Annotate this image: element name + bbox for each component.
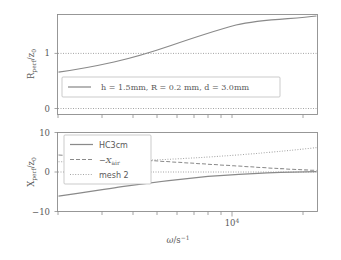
top-ytick-label-1: 1 [45,48,50,58]
legend-xair-sub: air [111,159,119,166]
bottom-legend-label-hc3cm: HC3cm [99,141,128,150]
bottom-ylabel-denom-sub: 0 [30,157,37,161]
x-axis-omega: ω [166,235,173,245]
top-legend-label: h = 1.5mm, R = 0.2 mm, d = 3.0mm [101,83,249,92]
bottom-ytick-label-0: 0 [45,167,50,177]
legend-xair-minus: − [99,156,106,165]
top-ylabel-sub: perf [30,59,38,72]
xtick-exponent: 4 [236,217,240,224]
x-axis-exponent: −1 [181,234,190,241]
bottom-legend-label-mesh2: mesh 2 [99,171,129,180]
top-ytick-label-0: 0 [45,104,50,114]
x-axis-slash-s: /s [173,235,180,245]
top-legend: h = 1.5mm, R = 0.2 mm, d = 3.0mm [62,77,280,97]
top-ylabel-denom-sub: 0 [30,49,37,53]
bottom-ylabel-sub: perf [30,168,38,181]
bottom-ytick-label-neg10: −10 [32,207,50,217]
xtick-mantissa: 10 [225,218,236,228]
bottom-legend: HC3cm −Xair mesh 2 [64,135,151,184]
bottom-ytick-label-10: 10 [39,128,50,138]
figure-container: 1 0 Rperf/z0 h = 1.5mm, R = 0.2 mm [0,0,341,260]
figure-background [0,0,341,260]
